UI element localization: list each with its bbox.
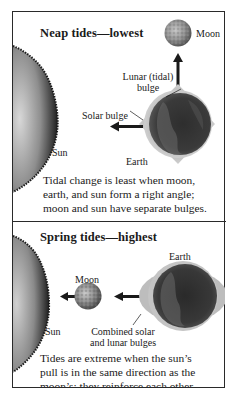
- earth-icon: [139, 84, 215, 164]
- neap-tides-panel: Neap tides—lowest Moon Lunar (tidal) bul…: [13, 12, 225, 221]
- spring-caption-line3: moon’s; they reinforce each other.: [40, 379, 195, 387]
- neap-caption-line2: earth, and sun form a right angle;: [43, 187, 207, 201]
- moon-icon: [75, 283, 102, 310]
- spring-sun-label: Sun: [45, 326, 61, 337]
- earth-icon: [139, 261, 225, 331]
- neap-caption-line1: Tidal change is least when moon,: [43, 173, 207, 187]
- lunar-bulge-label-line1: Lunar (tidal): [113, 71, 183, 82]
- spring-caption-line2: pull is in the same direction as the: [40, 365, 195, 379]
- spring-tides-title: Spring tides—highest: [40, 230, 157, 245]
- combined-bulges-label-line2: and lunar bulges: [83, 337, 163, 348]
- neap-tides-title: Neap tides—lowest: [40, 26, 143, 41]
- lunar-bulge-label: Lunar (tidal) bulge: [113, 71, 183, 93]
- spring-caption-line1: Tides are extreme when the sun’s: [40, 351, 195, 365]
- lunar-bulge-label-line2: bulge: [113, 82, 183, 93]
- neap-earth-label: Earth: [126, 156, 148, 167]
- solar-bulge-leader-line: [130, 111, 143, 120]
- neap-tides-caption: Tidal change is least when moon, earth, …: [43, 173, 207, 215]
- combined-bulges-label: Combined solar and lunar bulges: [83, 326, 163, 348]
- spring-moon-label: Moon: [75, 274, 99, 285]
- spring-tides-caption: Tides are extreme when the sun’s pull is…: [40, 351, 195, 387]
- moon-icon: [165, 20, 192, 47]
- neap-moon-label: Moon: [196, 28, 220, 39]
- combined-bulges-label-line1: Combined solar: [83, 326, 163, 337]
- spring-tides-panel: Spring tides—highest Earth Moon Sun Comb…: [13, 222, 225, 387]
- neap-caption-line3: moon and sun have separate bulges.: [43, 201, 207, 215]
- arrow-left-icon: [110, 122, 143, 132]
- arrow-left-icon: [114, 292, 141, 301]
- combined-bulge-leader-line: [133, 314, 141, 325]
- spring-earth-label: Earth: [169, 251, 191, 262]
- solar-bulge-label: Solar bulge: [82, 110, 128, 121]
- neap-sun-label: Sun: [52, 147, 68, 158]
- sun-icon: [13, 46, 58, 192]
